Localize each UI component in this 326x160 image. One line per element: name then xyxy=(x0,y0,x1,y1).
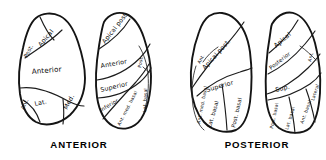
panel-posterior: Apical post. Ant. Superior Ant. med. bas… xyxy=(191,12,321,150)
posterior-left-lung: Apical post. Ant. Superior Ant. med. bas… xyxy=(191,13,252,132)
posterior-right-lung: Apical Posterior Ant. Sup. Lateral Post.… xyxy=(266,12,321,133)
anterior-right-lung: Apical post. Anterior Superior Inferior … xyxy=(96,10,151,129)
caption-anterior: ANTERIOR xyxy=(50,139,107,150)
lung-diagram-svg: Post. Apical Anterior Lat. Med. Ant. Api… xyxy=(0,0,326,160)
anterior-right-label-lat-basal: Lat. basal xyxy=(142,88,148,112)
caption-posterior: POSTERIOR xyxy=(225,139,290,150)
anterior-left-lung: Post. Apical Anterior Lat. Med. Ant. xyxy=(19,14,85,125)
lung-segments-figure: Post. Apical Anterior Lat. Med. Ant. Api… xyxy=(0,0,326,160)
panel-anterior: Post. Apical Anterior Lat. Med. Ant. Api… xyxy=(19,10,151,150)
